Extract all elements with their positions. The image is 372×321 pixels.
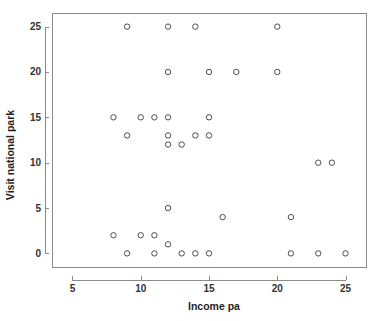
y-tick-label: 20 — [30, 66, 42, 77]
data-point — [165, 205, 170, 210]
x-tick-label: 15 — [203, 283, 215, 294]
data-point — [288, 214, 293, 219]
data-point — [179, 142, 184, 147]
panel-border — [53, 14, 367, 268]
data-point — [316, 160, 321, 165]
data-points-layer — [111, 24, 348, 256]
data-point — [165, 133, 170, 138]
x-tick-label: 10 — [135, 283, 147, 294]
data-point — [111, 115, 116, 120]
data-point — [193, 24, 198, 29]
data-point — [275, 69, 280, 74]
data-point — [316, 251, 321, 256]
data-point — [343, 251, 348, 256]
data-point — [220, 214, 225, 219]
data-point — [152, 233, 157, 238]
data-point — [124, 133, 129, 138]
x-axis: 510152025 — [70, 276, 352, 294]
data-point — [193, 251, 198, 256]
data-point — [234, 69, 239, 74]
plot-canvas: 510152025 0510152025 Income pa Visit nat… — [0, 0, 372, 321]
data-point — [152, 115, 157, 120]
data-point — [165, 115, 170, 120]
data-point — [206, 115, 211, 120]
y-tick-label: 10 — [30, 157, 42, 168]
data-point — [152, 251, 157, 256]
y-axis: 0510152025 — [30, 21, 49, 259]
data-point — [193, 133, 198, 138]
data-point — [179, 251, 184, 256]
data-point — [165, 242, 170, 247]
y-tick-label: 15 — [30, 112, 42, 123]
data-point — [138, 115, 143, 120]
data-point — [124, 251, 129, 256]
data-point — [111, 233, 116, 238]
y-axis-title: Visit national park — [4, 110, 16, 200]
data-point — [206, 133, 211, 138]
data-point — [206, 251, 211, 256]
data-point — [124, 24, 129, 29]
x-tick-label: 25 — [340, 283, 352, 294]
scatter-plot-figure: 510152025 0510152025 Income pa Visit nat… — [0, 0, 372, 321]
y-tick-label: 5 — [35, 203, 41, 214]
data-point — [138, 233, 143, 238]
data-point — [206, 69, 211, 74]
data-point — [165, 24, 170, 29]
x-tick-label: 5 — [70, 283, 76, 294]
x-tick-label: 20 — [272, 283, 284, 294]
data-point — [165, 69, 170, 74]
x-axis-title: Income pa — [188, 300, 240, 312]
y-tick-label: 0 — [35, 248, 41, 259]
data-point — [329, 160, 334, 165]
plot-panel — [53, 14, 367, 268]
data-point — [288, 251, 293, 256]
data-point — [275, 24, 280, 29]
data-point — [165, 142, 170, 147]
y-tick-label: 25 — [30, 21, 42, 32]
